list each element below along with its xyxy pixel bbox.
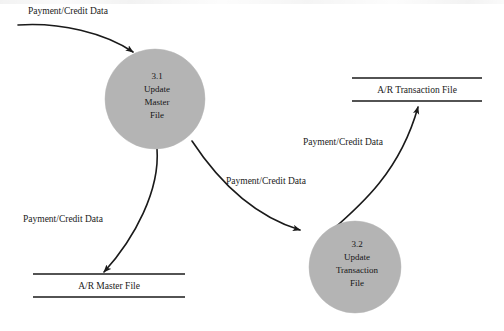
process-3-2-name-line-3: File bbox=[350, 278, 364, 288]
process-3-1-name-line-2: Master bbox=[145, 97, 170, 107]
process-node-3-1: 3.1 Update Master File bbox=[105, 49, 205, 149]
data-flow-process-31-to-ar-master-file: Payment/Credit Data bbox=[23, 149, 157, 272]
flow-label-32-to-transaction-file: Payment/Credit Data bbox=[303, 137, 384, 147]
flow-arrow-32-to-transaction-file bbox=[330, 107, 418, 232]
flow-arrow-external-to-31 bbox=[18, 25, 133, 52]
flow-label-31-to-32: Payment/Credit Data bbox=[226, 176, 307, 186]
data-flow-process-32-to-ar-transaction-file: Payment/Credit Data bbox=[303, 107, 418, 232]
process-3-1-name-line-1: Update bbox=[144, 84, 170, 94]
process-node-3-2: 3.2 Update Transaction File bbox=[309, 221, 401, 313]
process-3-1-name-line-3: File bbox=[150, 110, 164, 120]
process-3-2-number: 3.2 bbox=[351, 239, 362, 249]
ar-master-file-label: A/R Master File bbox=[78, 281, 140, 291]
data-flow-diagram-canvas: Payment/Credit Data Payment/Credit Data … bbox=[0, 0, 504, 331]
dfd-svg-surface: Payment/Credit Data Payment/Credit Data … bbox=[0, 0, 504, 331]
flow-label-external-to-31: Payment/Credit Data bbox=[28, 6, 109, 16]
data-flow-process-31-to-process-32: Payment/Credit Data bbox=[192, 141, 307, 230]
ar-transaction-file-label: A/R Transaction File bbox=[377, 85, 457, 95]
data-store-ar-master-file: A/R Master File bbox=[33, 274, 185, 297]
data-flow-external-to-process-31: Payment/Credit Data bbox=[18, 6, 133, 52]
process-3-2-name-line-1: Update bbox=[344, 252, 370, 262]
data-store-ar-transaction-file: A/R Transaction File bbox=[352, 78, 482, 101]
flow-arrow-31-to-master-file bbox=[104, 149, 157, 272]
process-3-2-name-line-2: Transaction bbox=[336, 265, 379, 275]
flow-label-31-to-master-file: Payment/Credit Data bbox=[23, 214, 104, 224]
process-3-1-number: 3.1 bbox=[151, 71, 162, 81]
